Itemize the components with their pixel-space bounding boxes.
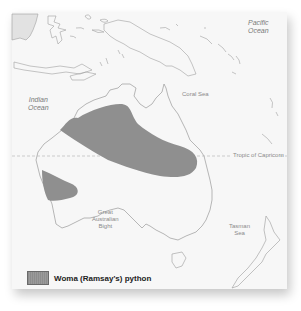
pacific-ocean-label: Pacific Ocean — [248, 19, 269, 35]
tropic-of-capricorn-label: Tropic of Capricorn — [233, 152, 284, 158]
indian-ocean-label: Indian Ocean — [28, 96, 49, 112]
tasman-sea-label: Tasman Sea — [229, 223, 250, 237]
legend-swatch-woma — [27, 271, 49, 285]
coral-sea-label: Coral Sea — [182, 91, 209, 98]
borneo-landmass — [12, 14, 38, 40]
woma-range-north — [60, 104, 197, 177]
great-australian-bight-label: Great Australian Bight — [92, 209, 119, 230]
lesser-sunda-islands — [14, 62, 96, 80]
legend-label-woma: Woma (Ramsay's) python — [54, 274, 151, 283]
map-legend: Woma (Ramsay's) python — [27, 271, 151, 285]
tasmania-landmass — [172, 252, 186, 268]
woma-range-southwest — [42, 170, 78, 201]
sulawesi-landmass — [48, 16, 66, 44]
new-guinea-landmass — [104, 20, 196, 76]
